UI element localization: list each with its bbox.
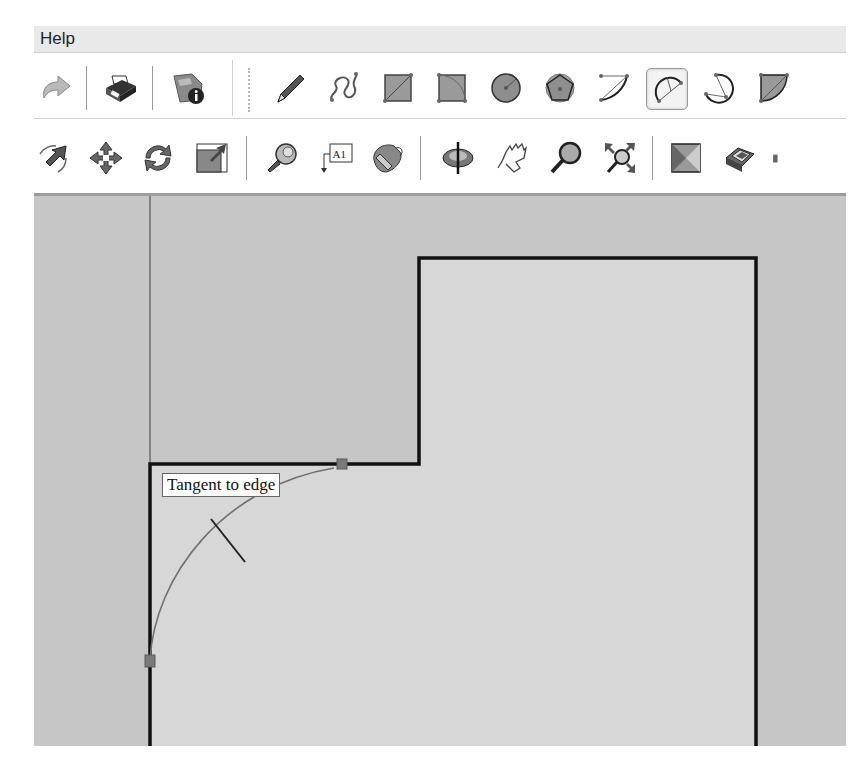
redo-button[interactable]	[36, 68, 76, 108]
paint-bucket-icon	[370, 140, 406, 176]
three-point-arc-icon	[702, 70, 738, 106]
scale-tool-button[interactable]	[192, 138, 232, 178]
inference-tooltip: Tangent to edge	[162, 473, 280, 497]
arc-endpoint-marker	[337, 459, 347, 469]
arc-startpoint-marker	[145, 655, 155, 667]
move-tool-button[interactable]	[86, 138, 126, 178]
l-shape-face	[150, 258, 756, 746]
menu-help[interactable]: Help	[40, 29, 75, 49]
move-icon	[88, 140, 124, 176]
menu-bar: Help	[34, 26, 846, 53]
zoom-extents-tool-button[interactable]	[600, 138, 640, 178]
print-button[interactable]	[100, 68, 140, 108]
model-info-icon	[170, 70, 206, 106]
rotate-icon	[140, 140, 176, 176]
components-icon	[722, 140, 758, 176]
orbit-icon	[440, 140, 476, 176]
follow-me-icon	[36, 140, 72, 176]
freehand-tool-button[interactable]	[324, 68, 364, 108]
line-tool-button[interactable]	[270, 68, 310, 108]
hand-pan-icon	[494, 140, 530, 176]
components-tool-button[interactable]	[720, 138, 760, 178]
edit-camera-toolbar: A1	[34, 130, 846, 192]
tape-measure-icon	[264, 140, 300, 176]
orbit-tool-button[interactable]	[438, 138, 478, 178]
toolbar-separator	[246, 136, 247, 180]
polygon-icon	[542, 70, 578, 106]
follow-me-tool-button[interactable]	[34, 138, 74, 178]
toolbar-grip[interactable]	[248, 68, 251, 112]
clipped-tool-icon	[772, 140, 792, 176]
freehand-icon	[326, 70, 362, 106]
section-plane-tool-button[interactable]	[666, 138, 706, 178]
more-tools-button[interactable]	[772, 138, 792, 178]
rotated-rectangle-tool-button[interactable]	[432, 68, 472, 108]
toolbar-separator	[652, 136, 653, 180]
printer-icon	[102, 70, 138, 106]
rectangle-icon	[380, 70, 416, 106]
zoom-tool-button[interactable]	[546, 138, 586, 178]
rectangle-tool-button[interactable]	[378, 68, 418, 108]
two-point-arc-icon	[649, 71, 685, 107]
circle-icon	[488, 70, 524, 106]
text-tool-button[interactable]: A1	[316, 138, 356, 178]
text-label-icon: A1	[318, 140, 354, 176]
drawing-toolbar	[34, 60, 846, 119]
section-plane-icon	[668, 140, 704, 176]
scale-icon	[194, 140, 230, 176]
toolbar-separator	[152, 66, 153, 110]
two-point-arc-tool-button[interactable]	[646, 68, 688, 110]
toolbar-separator	[86, 66, 87, 110]
arc-icon	[596, 70, 632, 106]
model-geometry	[34, 196, 846, 746]
pencil-icon	[272, 70, 308, 106]
redo-arrow-icon	[38, 70, 74, 106]
pie-icon	[756, 70, 792, 106]
paint-bucket-tool-button[interactable]	[368, 138, 408, 178]
rotated-rectangle-icon	[434, 70, 470, 106]
a1-glyph: A1	[333, 148, 346, 160]
model-info-button[interactable]	[168, 68, 208, 108]
toolbar-separator	[420, 136, 421, 180]
rotate-tool-button[interactable]	[138, 138, 178, 178]
polygon-tool-button[interactable]	[540, 68, 580, 108]
three-point-arc-tool-button[interactable]	[700, 68, 740, 108]
circle-tool-button[interactable]	[486, 68, 526, 108]
arc-tool-button[interactable]	[594, 68, 634, 108]
zoom-magnifier-icon	[548, 140, 584, 176]
pan-tool-button[interactable]	[492, 138, 532, 178]
pie-tool-button[interactable]	[754, 68, 794, 108]
zoom-extents-icon	[602, 140, 638, 176]
drawing-canvas[interactable]	[34, 193, 846, 746]
tape-measure-tool-button[interactable]	[262, 138, 302, 178]
toolbar-group-border	[232, 60, 233, 116]
